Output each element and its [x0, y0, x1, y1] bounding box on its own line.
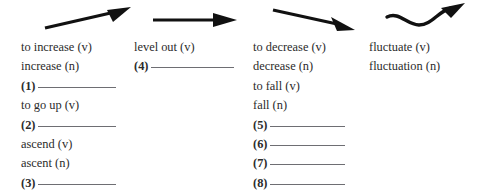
list-item: to fall (v)	[253, 77, 353, 96]
arrow-down-right-icon	[253, 0, 353, 36]
blank-number: (4)	[134, 57, 148, 76]
blank-number: (3)	[21, 174, 35, 193]
worksheet-column-rising: to increase (v) increase (n) (1) to go u…	[0, 0, 117, 194]
list-item-blank[interactable]: (2)	[21, 116, 117, 135]
list-item-blank[interactable]: (4)	[134, 57, 237, 76]
entry-text: to decrease (v)	[253, 38, 326, 57]
blank-number: (8)	[253, 174, 267, 193]
list-item-blank[interactable]: (7)	[253, 154, 353, 173]
blank-rule[interactable]	[38, 126, 116, 127]
blank-rule[interactable]	[270, 126, 345, 127]
entry-text: fall (n)	[253, 96, 287, 115]
blank-rule[interactable]	[270, 184, 345, 185]
entry-text: fluctuation (n)	[369, 57, 440, 76]
worksheet-columns: to increase (v) increase (n) (1) to go u…	[0, 0, 485, 194]
entry-list: level out (v) (4)	[134, 36, 237, 77]
vocabulary-worksheet: to increase (v) increase (n) (1) to go u…	[0, 0, 485, 194]
entry-text: decrease (n)	[253, 57, 313, 76]
entry-text: increase (n)	[21, 57, 79, 76]
arrow-up-right-icon	[21, 0, 117, 36]
list-item: fall (n)	[253, 96, 353, 115]
blank-rule[interactable]	[151, 67, 234, 68]
worksheet-column-fluctuating: fluctuate (v) fluctuation (n)	[353, 0, 485, 194]
blank-rule[interactable]	[38, 87, 116, 88]
list-item: level out (v)	[134, 38, 237, 57]
list-item: to go up (v)	[21, 96, 117, 115]
blank-number: (7)	[253, 154, 267, 173]
blank-number: (6)	[253, 135, 267, 154]
worksheet-column-level: level out (v) (4)	[117, 0, 237, 194]
list-item: to decrease (v)	[253, 38, 353, 57]
list-item: fluctuate (v)	[369, 38, 485, 57]
blank-rule[interactable]	[270, 164, 345, 165]
entry-list: fluctuate (v) fluctuation (n)	[369, 36, 485, 77]
list-item: ascend (v)	[21, 135, 117, 154]
entry-text: level out (v)	[134, 38, 195, 57]
list-item: ascent (n)	[21, 154, 117, 173]
worksheet-column-falling: to decrease (v) decrease (n) to fall (v)…	[237, 0, 353, 194]
entry-text: to go up (v)	[21, 96, 79, 115]
blank-rule[interactable]	[38, 184, 116, 185]
list-item: increase (n)	[21, 57, 117, 76]
list-item-blank[interactable]: (3)	[21, 174, 117, 193]
blank-number: (5)	[253, 116, 267, 135]
list-item: fluctuation (n)	[369, 57, 485, 76]
list-item-blank[interactable]: (5)	[253, 116, 353, 135]
arrow-right-icon	[134, 0, 237, 36]
list-item-blank[interactable]: (1)	[21, 77, 117, 96]
entry-list: to increase (v) increase (n) (1) to go u…	[21, 36, 117, 193]
entry-text: ascent (n)	[21, 154, 70, 173]
list-item-blank[interactable]: (6)	[253, 135, 353, 154]
entry-text: fluctuate (v)	[369, 38, 430, 57]
blank-number: (2)	[21, 116, 35, 135]
arrow-wavy-up-right-icon	[369, 0, 485, 36]
list-item: to increase (v)	[21, 38, 117, 57]
entry-text: to increase (v)	[21, 38, 92, 57]
list-item: decrease (n)	[253, 57, 353, 76]
blank-rule[interactable]	[270, 145, 345, 146]
list-item-blank[interactable]: (8)	[253, 174, 353, 193]
entry-list: to decrease (v) decrease (n) to fall (v)…	[253, 36, 353, 193]
entry-text: ascend (v)	[21, 135, 72, 154]
entry-text: to fall (v)	[253, 77, 300, 96]
blank-number: (1)	[21, 77, 35, 96]
